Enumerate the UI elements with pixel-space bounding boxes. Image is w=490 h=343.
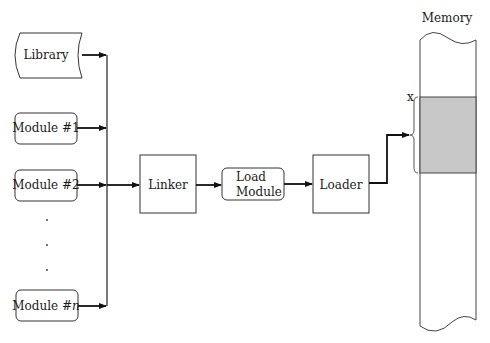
module-1-label: Module #1 — [12, 121, 79, 135]
load-module-node: Load Module — [222, 168, 284, 200]
module-n-label: Module #n — [12, 299, 79, 313]
module-1-node: Module #1 — [12, 113, 79, 144]
loader-node: Loader — [313, 155, 369, 213]
input-arrows — [77, 55, 106, 306]
linker-loader-diagram: Library Module #1 Module #2 Module #n Li… — [0, 0, 490, 343]
module-2-node: Module #2 — [12, 170, 79, 201]
linker-node: Linker — [140, 155, 196, 213]
region-brace — [410, 97, 418, 173]
module-2-label: Module #2 — [12, 178, 79, 192]
address-x-label: x — [407, 90, 414, 104]
loaded-program-region — [420, 97, 476, 173]
linker-label: Linker — [148, 178, 188, 192]
load-module-label-line2: Module — [236, 185, 282, 199]
module-n-node: Module #n — [12, 290, 79, 321]
load-module-label-line1: Load — [236, 170, 266, 184]
loader-label: Loader — [320, 178, 363, 192]
memory-block: Memory x — [407, 11, 476, 331]
ellipsis-dots — [46, 219, 48, 271]
library-node: Library — [15, 33, 82, 78]
loader-to-memory-arrow — [369, 135, 409, 183]
library-label: Library — [24, 48, 69, 62]
memory-title: Memory — [422, 11, 473, 25]
